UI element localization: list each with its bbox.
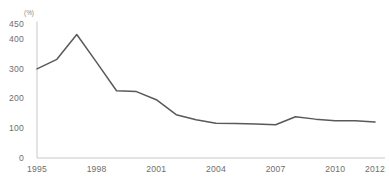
y-axis-tick-labels: 4504003002001000 bbox=[9, 19, 24, 164]
x-axis-tick-labels: 1995199820012004200720102012 bbox=[27, 164, 385, 174]
data-series-line bbox=[37, 35, 375, 125]
x-axis-tick-label: 2007 bbox=[266, 164, 286, 174]
chart-canvas: (%) 4504003002001000 1995199820012004200… bbox=[0, 0, 389, 179]
chart-axes bbox=[37, 22, 385, 159]
x-axis-tick-label: 1998 bbox=[87, 164, 107, 174]
x-axis-tick-label: 1995 bbox=[27, 164, 47, 174]
y-axis-tick-label: 100 bbox=[9, 123, 24, 133]
x-axis-tick-label: 2012 bbox=[365, 164, 385, 174]
y-axis-tick-label: 200 bbox=[9, 93, 24, 103]
x-axis-tick-label: 2001 bbox=[146, 164, 166, 174]
y-axis-tick-label: 400 bbox=[9, 34, 24, 44]
y-axis-tick-label: 450 bbox=[9, 19, 24, 29]
y-axis-tick-label: 0 bbox=[19, 153, 24, 163]
y-axis-unit-label: (%) bbox=[24, 9, 34, 17]
x-axis-tick-label: 2010 bbox=[325, 164, 345, 174]
x-axis-tick-label: 2004 bbox=[206, 164, 226, 174]
y-axis-tick-label: 300 bbox=[9, 64, 24, 74]
line-chart: (%) 4504003002001000 1995199820012004200… bbox=[0, 0, 389, 179]
